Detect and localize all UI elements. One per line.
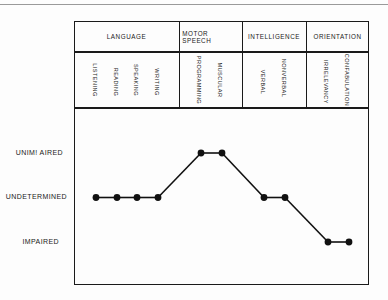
data-point-listening — [93, 194, 100, 201]
data-point-confabulation — [346, 239, 353, 246]
plot-area — [0, 0, 388, 300]
series-segment — [285, 198, 328, 243]
series-segment — [222, 153, 264, 198]
data-point-programming — [198, 150, 205, 157]
data-point-speaking — [134, 194, 141, 201]
data-point-writing — [155, 194, 162, 201]
data-point-verbal — [261, 194, 268, 201]
data-point-reading — [114, 194, 121, 201]
data-point-nonverbal — [282, 194, 289, 201]
series-segment — [158, 153, 201, 198]
data-point-irrelevancy — [325, 239, 332, 246]
data-point-muscular — [219, 150, 226, 157]
